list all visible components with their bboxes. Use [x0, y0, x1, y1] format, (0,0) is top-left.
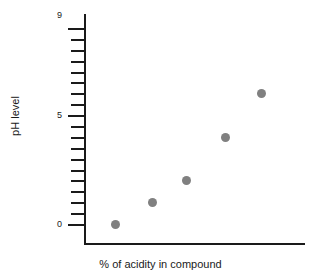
y-tick-minor-8	[71, 50, 84, 52]
y-tick-label-5: 5	[40, 110, 62, 120]
y-tick-minor-4-5	[71, 126, 84, 128]
y-tick-minor-3	[71, 159, 84, 161]
y-tick-minor-2	[71, 180, 84, 182]
y-axis-line	[84, 14, 86, 245]
y-tick-minor-6-5	[71, 82, 84, 84]
y-tick-major-9	[68, 28, 84, 30]
scatter-chart: 0 5 9 pH level % of acidity in compound	[0, 0, 321, 278]
data-point	[257, 89, 266, 98]
y-tick-minor-1	[71, 202, 84, 204]
y-tick-minor-8-5	[71, 39, 84, 41]
y-tick-major-0	[68, 224, 84, 226]
y-tick-minor-6	[71, 93, 84, 95]
data-point	[221, 133, 230, 142]
y-tick-minor-1-5	[71, 191, 84, 193]
y-tick-minor-5-5	[71, 104, 84, 106]
y-tick-major-5	[68, 115, 84, 117]
x-axis-line	[84, 243, 305, 245]
y-tick-minor-7-5	[71, 61, 84, 63]
y-axis-title: pH level	[9, 71, 21, 161]
x-axis-title: % of acidity in compound	[0, 258, 321, 270]
y-tick-minor-2-5	[71, 170, 84, 172]
data-point	[182, 176, 191, 185]
y-tick-minor-4	[71, 137, 84, 139]
y-tick-label-0: 0	[40, 219, 62, 229]
y-tick-minor-7	[71, 72, 84, 74]
data-point	[111, 220, 120, 229]
y-tick-minor-3-5	[71, 148, 84, 150]
y-tick-label-9: 9	[40, 10, 62, 20]
y-tick-minor-0-5	[71, 213, 84, 215]
data-point	[148, 198, 157, 207]
